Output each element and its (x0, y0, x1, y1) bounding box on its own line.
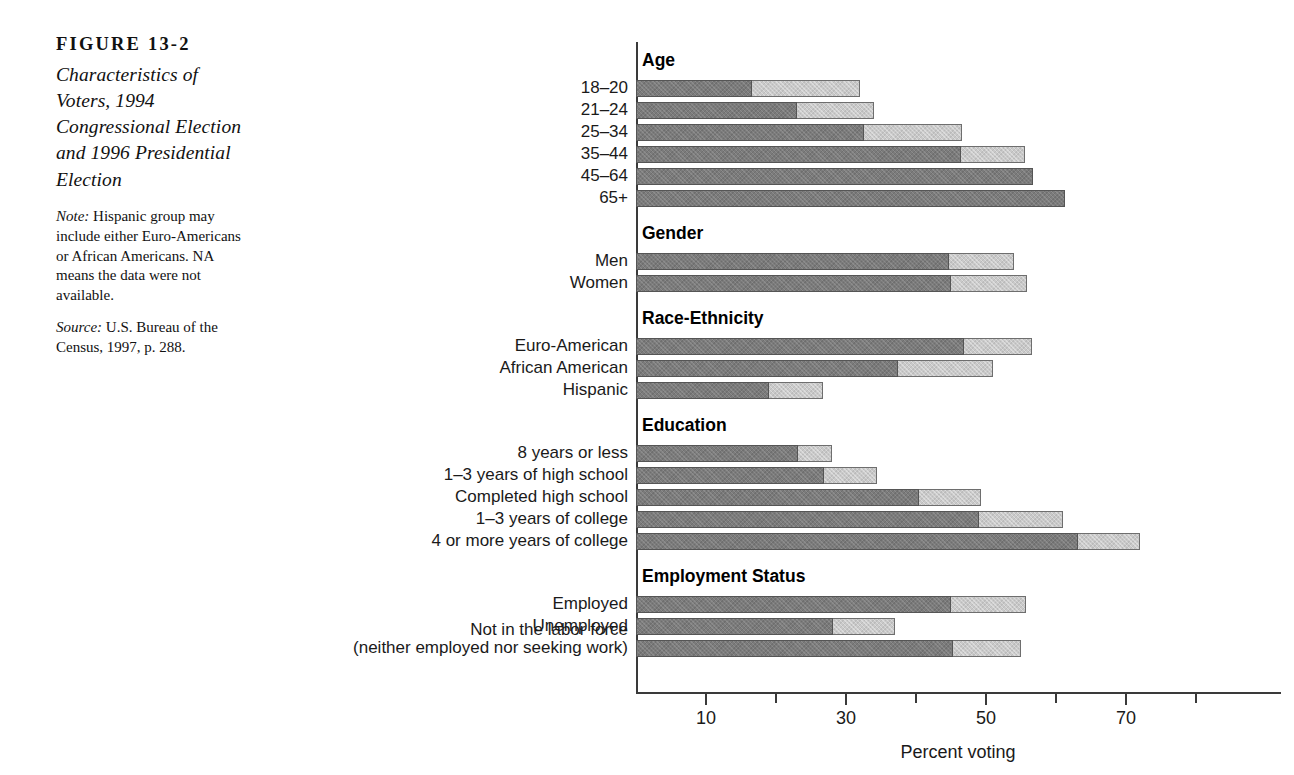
x-tick-major (985, 694, 987, 705)
x-tick-major (705, 694, 707, 705)
row-label: 1–3 years of high school (444, 466, 628, 484)
bar-segment-congressional (636, 640, 953, 657)
row-label: African American (500, 359, 629, 377)
bar-segment-congressional (636, 533, 1078, 550)
chart: Age18–2021–2425–3435–4445–6465+GenderMen… (0, 0, 1294, 775)
bar-segment-congressional (636, 168, 1033, 185)
row-label: 18–20 (581, 79, 628, 97)
bar-segment-congressional (636, 489, 919, 506)
row-label: 35–44 (581, 145, 628, 163)
bar-segment-congressional (636, 467, 824, 484)
x-tick-major (1125, 694, 1127, 705)
bar-segment-congressional (636, 275, 951, 292)
x-tick-minor (1055, 694, 1057, 703)
group-heading-age: Age (642, 50, 675, 71)
bar-segment-congressional (636, 146, 961, 163)
row-label: Euro-American (515, 337, 628, 355)
x-tick-label: 50 (976, 708, 996, 729)
row-label: Men (595, 252, 628, 270)
row-label: 65+ (599, 189, 628, 207)
x-axis-title: Percent voting (900, 742, 1015, 763)
bar-segment-congressional (636, 596, 951, 613)
bar-segment-congressional (636, 445, 798, 462)
bar-segment-congressional (636, 382, 769, 399)
bar-segment-congressional (636, 80, 752, 97)
bar-segment-congressional (636, 618, 833, 635)
row-label: 45–64 (581, 167, 628, 185)
bar-segment-congressional (636, 338, 964, 355)
row-label: Employed (552, 595, 628, 613)
x-tick-label: 70 (1116, 708, 1136, 729)
bar-segment-congressional (636, 190, 1065, 207)
row-label: 1–3 years of college (476, 510, 628, 528)
row-label: 25–34 (581, 123, 628, 141)
bar-segment-congressional (636, 511, 979, 528)
group-heading-employment-status: Employment Status (642, 566, 805, 587)
x-tick-minor (915, 694, 917, 703)
row-label: Completed high school (455, 488, 628, 506)
row-label: 8 years or less (517, 444, 628, 462)
row-label: Women (570, 274, 628, 292)
group-heading-education: Education (642, 415, 727, 436)
bar-segment-congressional (636, 102, 797, 119)
x-tick-label: 30 (836, 708, 856, 729)
x-tick-major (845, 694, 847, 705)
group-heading-gender: Gender (642, 223, 703, 244)
group-heading-race-ethnicity: Race-Ethnicity (642, 308, 764, 329)
bar-segment-congressional (636, 253, 949, 270)
row-label: 21–24 (581, 101, 628, 119)
x-tick-minor (775, 694, 777, 703)
row-label: Not in the labor force(neither employed … (353, 621, 628, 657)
x-tick-label: 10 (696, 708, 716, 729)
bar-segment-congressional (636, 360, 898, 377)
x-tick-minor (1195, 694, 1197, 703)
row-label: 4 or more years of college (431, 532, 628, 550)
row-label: Hispanic (563, 381, 628, 399)
bar-segment-congressional (636, 124, 864, 141)
